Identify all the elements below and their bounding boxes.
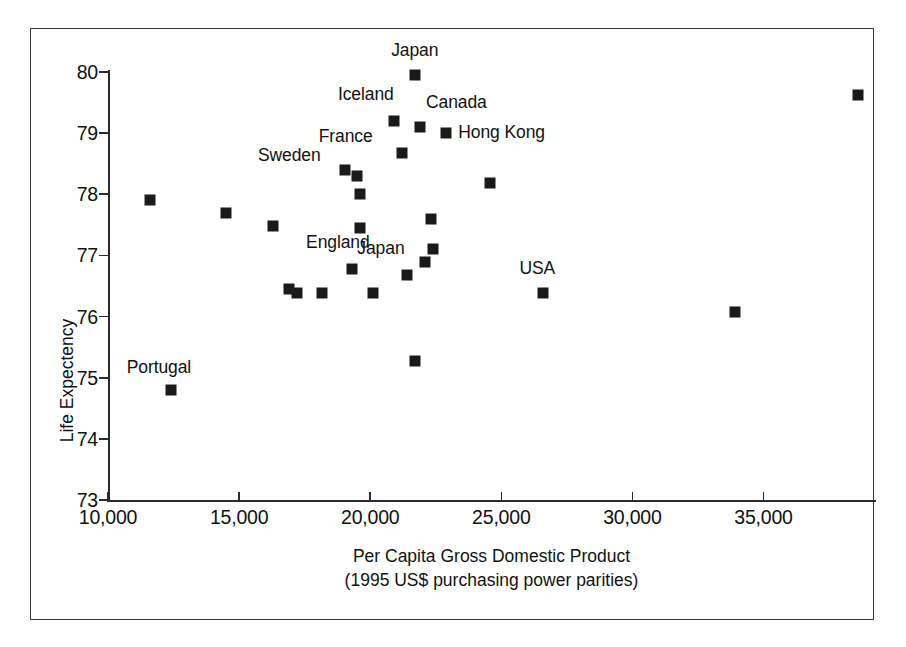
y-tick-label: 80 [48, 61, 98, 84]
data-point [538, 288, 549, 299]
x-tick-mark [501, 492, 503, 501]
data-point [415, 122, 426, 133]
y-tick-label: 77 [48, 244, 98, 267]
data-point-label: Sweden [258, 147, 321, 165]
data-point [354, 189, 365, 200]
data-point [420, 256, 431, 267]
data-point [221, 207, 232, 218]
x-tick-label: 10,000 [79, 506, 137, 529]
data-point [729, 306, 740, 317]
data-point [396, 148, 407, 159]
data-point [409, 355, 420, 366]
data-point-label: USA [519, 261, 555, 279]
data-point [346, 263, 357, 274]
data-point [355, 222, 366, 233]
y-tick-label: 78 [48, 183, 98, 206]
x-tick-mark [369, 492, 371, 501]
y-tick-label: 76 [48, 305, 98, 328]
x-tick-label: 15,000 [210, 506, 268, 529]
data-point [852, 89, 863, 100]
data-point-label: Hong Kong [458, 124, 545, 142]
y-tick-mark [99, 377, 108, 379]
figure-canvas: Life Expectency Per Capita Gross Domesti… [0, 0, 906, 647]
data-point [409, 70, 420, 81]
data-point [165, 384, 176, 395]
data-point-label: France [319, 129, 373, 147]
x-tick-label: 35,000 [734, 506, 792, 529]
data-point [388, 115, 399, 126]
data-point-label: Japan [357, 240, 404, 258]
y-tick-mark [99, 255, 108, 257]
x-tick-mark [763, 492, 765, 501]
data-point-label: Japan [391, 42, 438, 60]
data-point [316, 288, 327, 299]
x-tick-mark [632, 492, 634, 501]
data-point [144, 195, 155, 206]
x-tick-label: 30,000 [603, 506, 661, 529]
data-point-label: Iceland [338, 86, 394, 104]
y-tick-mark [99, 438, 108, 440]
y-axis-line [108, 70, 110, 502]
data-point [441, 128, 452, 139]
x-axis-title: Per Capita Gross Domestic Product (1995 … [108, 545, 875, 592]
y-tick-mark [99, 132, 108, 134]
data-point [291, 288, 302, 299]
y-tick-label: 79 [48, 122, 98, 145]
x-axis-line [107, 500, 876, 502]
y-tick-label: 75 [48, 366, 98, 389]
data-point [367, 288, 378, 299]
y-tick-mark [99, 71, 108, 73]
y-tick-mark [99, 193, 108, 195]
data-point-label: Portugal [127, 359, 191, 377]
data-point [340, 164, 351, 175]
data-point-label: Canada [426, 94, 487, 112]
data-point [425, 213, 436, 224]
figure-border [30, 28, 874, 620]
x-tick-mark [238, 492, 240, 501]
data-point [401, 269, 412, 280]
data-point [268, 221, 279, 232]
data-point [428, 244, 439, 255]
x-axis-title-line1: Per Capita Gross Domestic Product [108, 545, 875, 569]
data-point [484, 178, 495, 189]
y-tick-label: 74 [48, 427, 98, 450]
x-axis-title-line2: (1995 US$ purchasing power parities) [108, 569, 875, 593]
x-tick-label: 20,000 [341, 506, 399, 529]
x-tick-mark [107, 492, 109, 501]
y-tick-mark [99, 316, 108, 318]
data-point [352, 170, 363, 181]
x-tick-label: 25,000 [472, 506, 530, 529]
